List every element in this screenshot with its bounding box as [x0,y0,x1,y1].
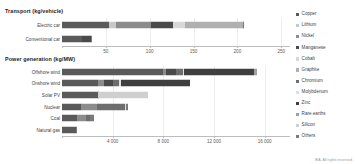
legend-item: Nickel [296,31,356,42]
legend-item: Silicon [296,120,356,131]
bar-segment [62,68,163,75]
chart-root: Transport (kg/vehicle) Electric carConve… [0,0,356,164]
legend-label: Cobalt [302,57,315,62]
bar-row-label: Coal [51,116,60,121]
legend-item: Rare earths [296,109,356,120]
bar-row: Nuclear [62,101,290,113]
legend: CopperLithiumNickelManganeseCobaltGraphi… [296,9,356,142]
bar-segment [81,103,97,110]
bar-segment [151,22,172,29]
plot-area-transport: Electric carConventional car501001502002… [62,18,290,46]
legend-label: Lithium [302,23,317,28]
bar-segment [90,115,93,122]
bar-segment [121,80,190,87]
x-axis-tick-label: 250 [277,49,285,54]
stacked-bar [62,92,148,99]
bar-segment [62,36,82,43]
stacked-bar [62,103,128,110]
bar-row: Electric car [62,18,290,32]
bar-segment [176,68,183,75]
legend-swatch-icon [296,80,299,83]
copyright-notice: IEA. All rights reserved. [315,158,353,162]
bar-row-label: Electric car [37,23,60,28]
legend-label: Copper [302,12,317,17]
bar-segment [116,22,151,29]
legend-item: Copper [296,9,356,20]
x-axis-line [62,136,290,137]
bar-segment [98,92,148,99]
bar-segment [77,115,86,122]
legend-label: Graphite [302,68,320,73]
bar-segment [62,22,109,29]
legend-label: Manganese [302,46,326,51]
legend-item: Molybdenum [296,87,356,98]
bar-row-label: Solar PV [42,93,60,98]
panel-transport-title: Transport (kg/vehicle) [5,8,63,14]
legend-swatch-icon [296,91,299,94]
legend-item: Manganese [296,42,356,53]
bar-segment [166,68,176,75]
bar-segment [109,22,117,29]
legend-label: Molybdenum [302,90,328,95]
stacked-bar [62,127,77,134]
x-axis-line [62,46,290,47]
bar-segment [62,127,76,134]
x-axis-tick [62,136,63,138]
legend-swatch-icon [296,57,299,60]
x-axis-tick-label: 12 000 [207,139,221,144]
stacked-bar [62,115,94,122]
bar-segment [62,115,77,122]
x-axis-tick-label: 8 000 [158,139,170,144]
bar-row-label: Conventional car [26,37,60,42]
stacked-bar [62,80,190,87]
legend-label: Rare earths [302,112,326,117]
legend-item: Graphite [296,64,356,75]
legend-swatch-icon [296,24,299,27]
legend-swatch-icon [296,68,299,71]
x-axis-tick [62,46,63,48]
bar-segment [62,80,98,87]
x-axis-tick-label: 100 [146,49,154,54]
bar-segment [184,68,254,75]
panel-power-generation-title: Power generation (kg/MW) [5,56,75,62]
stacked-bar [62,22,244,29]
legend-item: Zinc [296,98,356,109]
bar-row: Solar PV [62,89,290,101]
bar-segment [97,103,125,110]
legend-swatch-icon [296,102,299,105]
x-axis-tick-label: 200 [234,49,242,54]
bar-segment [62,103,81,110]
legend-swatch-icon [296,13,299,16]
legend-label: Zinc [302,101,311,106]
bar-segment [126,103,128,110]
legend-label: Others [302,134,316,139]
bar-row-label: Nuclear [44,104,60,109]
legend-item: Chromium [296,76,356,87]
bar-segment [185,22,243,29]
x-axis-tick-label: 150 [190,49,198,54]
x-axis-tick-label: 50 [103,49,108,54]
x-axis-tick-label: 16 000 [258,139,272,144]
legend-label: Nickel [302,34,315,39]
bar-segment [76,127,77,134]
stacked-bar [62,68,257,75]
legend-label: Chromium [302,79,323,84]
bar-segment [82,36,92,43]
legend-item: Others [296,131,356,142]
bar-row-label: Onshore wind [32,81,60,86]
bar-segment [254,68,257,75]
stacked-bar [62,36,92,43]
legend-item: Lithium [296,20,356,31]
legend-label: Silicon [302,123,316,128]
bar-row: Offshore wind [62,66,290,78]
bar-row: Onshore wind [62,78,290,90]
bar-row-label: Natural gas [37,128,61,133]
bar-segment [104,80,114,87]
legend-swatch-icon [296,135,299,138]
plot-area-power-generation: Offshore windOnshore windSolar PVNuclear… [62,66,290,136]
legend-swatch-icon [296,46,299,49]
x-axis-tick-label: 4 000 [107,139,119,144]
legend-swatch-icon [296,124,299,127]
bar-row: Coal [62,113,290,125]
legend-swatch-icon [296,35,299,38]
